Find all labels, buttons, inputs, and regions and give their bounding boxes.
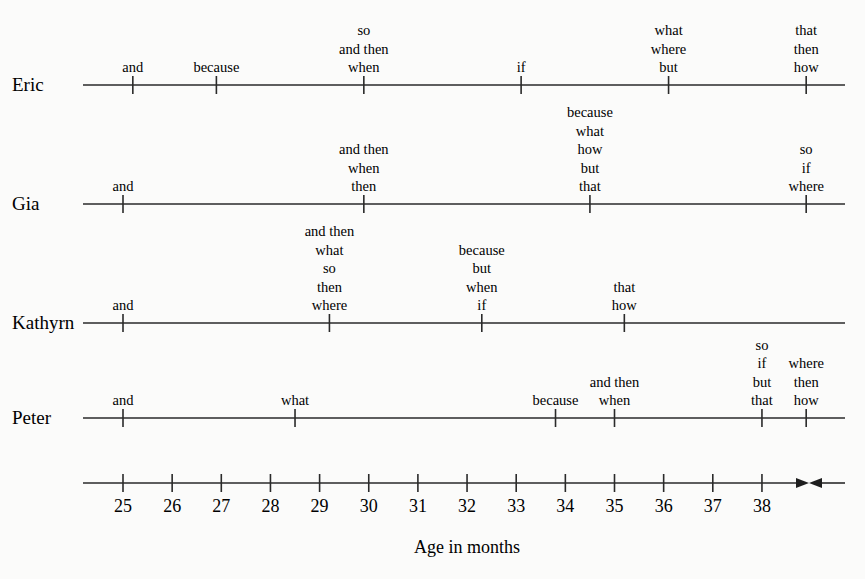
connective-word: and xyxy=(113,297,135,313)
connective-word: because xyxy=(459,242,505,258)
connective-word: how xyxy=(794,59,820,75)
connective-word: and xyxy=(113,392,135,408)
connective-word: so xyxy=(800,141,813,157)
child-name-label: Gia xyxy=(12,193,40,214)
connective-word: then xyxy=(317,279,343,295)
connective-word: when xyxy=(599,392,631,408)
axis-tick-label: 27 xyxy=(212,496,230,516)
connective-word: that xyxy=(613,279,635,295)
connective-word: what xyxy=(576,123,604,139)
axis-tick-label: 25 xyxy=(114,496,132,516)
connective-word: when xyxy=(466,279,498,295)
acquisition-event: thathow xyxy=(612,279,638,333)
acquisition-event: soifwhere xyxy=(788,141,823,213)
connective-word: what xyxy=(315,242,343,258)
x-axis-title: Age in months xyxy=(414,537,520,557)
connective-word: that xyxy=(795,22,817,38)
connective-word: then xyxy=(794,374,820,390)
connective-word: but xyxy=(473,260,492,276)
connective-word: then xyxy=(794,41,820,57)
acquisition-event: and xyxy=(113,392,135,427)
connective-word: but xyxy=(753,374,772,390)
axis-tick-label: 30 xyxy=(360,496,378,516)
axis-break-arrow-left-icon xyxy=(809,478,822,488)
connective-word: if xyxy=(758,355,767,371)
axis-tick-label: 28 xyxy=(261,496,279,516)
connective-word: when xyxy=(348,59,380,75)
x-axis: 2526272829303132333435363738 xyxy=(83,474,845,516)
connective-word: and then xyxy=(590,374,640,390)
connective-word: and xyxy=(113,178,135,194)
axis-tick-label: 33 xyxy=(507,496,525,516)
connective-word: how xyxy=(794,392,820,408)
connective-word: because xyxy=(533,392,579,408)
acquisition-event: because xyxy=(193,59,239,94)
timeline-row-gia: Giaandand thenwhenthenbecausewhathowbutt… xyxy=(12,104,845,214)
connective-word: so xyxy=(755,337,768,353)
connective-word: and then xyxy=(339,141,389,157)
connective-word: if xyxy=(477,297,486,313)
axis-tick-label: 37 xyxy=(704,496,722,516)
connective-word: how xyxy=(577,141,603,157)
acquisition-event: if xyxy=(517,59,526,94)
connective-word: when xyxy=(348,160,380,176)
connective-word: because xyxy=(193,59,239,75)
axis-tick-label: 26 xyxy=(163,496,181,516)
axis-tick-label: 35 xyxy=(606,496,624,516)
acquisition-event: thatthenhow xyxy=(794,22,820,94)
connective-word: that xyxy=(751,392,773,408)
acquisition-event: and thenwhenthen xyxy=(339,141,389,213)
connective-word: where xyxy=(788,355,823,371)
connective-word: if xyxy=(517,59,526,75)
acquisition-event: and xyxy=(113,297,135,332)
acquisition-event: soifbutthat xyxy=(751,337,773,428)
axis-break-arrow-right-icon xyxy=(796,478,809,488)
acquisition-event: becausebutwhenif xyxy=(459,242,505,333)
connective-word: what xyxy=(281,392,309,408)
child-name-label: Eric xyxy=(12,74,44,95)
connective-acquisition-timeline-chart: Ericandbecausesoand thenwhenifwhatwhereb… xyxy=(0,0,865,579)
connective-word: if xyxy=(802,160,811,176)
timeline-row-peter: Peterandwhatbecauseand thenwhensoifbutth… xyxy=(12,337,845,429)
acquisition-event: and thenwhen xyxy=(590,374,640,428)
connective-word: that xyxy=(579,178,601,194)
child-rows: Ericandbecausesoand thenwhenifwhatwhereb… xyxy=(12,22,845,428)
connective-word: where xyxy=(788,178,823,194)
connective-word: because xyxy=(567,104,613,120)
acquisition-event: and thenwhatsothenwhere xyxy=(305,223,355,332)
connective-word: how xyxy=(612,297,638,313)
acquisition-event: soand thenwhen xyxy=(339,22,389,94)
connective-word: where xyxy=(312,297,347,313)
connective-word: so xyxy=(357,22,370,38)
connective-word: and xyxy=(122,59,144,75)
timeline-row-kathyrn: Kathyrnandand thenwhatsothenwherebecause… xyxy=(12,223,845,333)
acquisition-event: and xyxy=(122,59,144,94)
timeline-row-eric: Ericandbecausesoand thenwhenifwhatwhereb… xyxy=(12,22,845,95)
connective-word: where xyxy=(651,41,686,57)
axis-tick-label: 29 xyxy=(311,496,329,516)
connective-word: so xyxy=(323,260,336,276)
acquisition-event: wherethenhow xyxy=(788,355,823,427)
connective-word: and then xyxy=(305,223,355,239)
axis-tick-label: 32 xyxy=(458,496,476,516)
acquisition-event: whatwherebut xyxy=(651,22,686,94)
acquisition-event: what xyxy=(281,392,309,427)
axis-tick-label: 31 xyxy=(409,496,427,516)
axis-tick-label: 34 xyxy=(556,496,574,516)
connective-word: but xyxy=(581,160,600,176)
connective-word: then xyxy=(351,178,377,194)
axis-tick-label: 38 xyxy=(753,496,771,516)
connective-word: but xyxy=(659,59,678,75)
connective-word: what xyxy=(654,22,682,38)
acquisition-event: becausewhathowbutthat xyxy=(567,104,613,213)
connective-word: and then xyxy=(339,41,389,57)
acquisition-event: because xyxy=(533,392,579,427)
child-name-label: Kathyrn xyxy=(12,312,75,333)
axis-tick-label: 36 xyxy=(655,496,673,516)
acquisition-event: and xyxy=(113,178,135,213)
child-name-label: Peter xyxy=(12,407,52,428)
